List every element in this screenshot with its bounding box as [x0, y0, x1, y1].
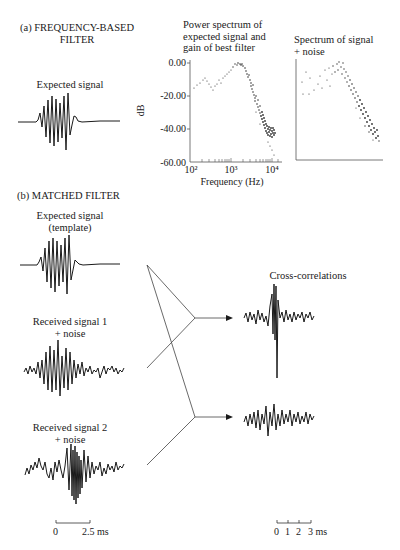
right-scale-tick-2: 2 [296, 526, 301, 537]
right-scale-tick-1: 1 [285, 526, 290, 537]
right-scale-tick-3: 3 ms [308, 526, 327, 537]
right-scale-bar [0, 0, 400, 550]
right-scale-tick-0: 0 [274, 526, 279, 537]
